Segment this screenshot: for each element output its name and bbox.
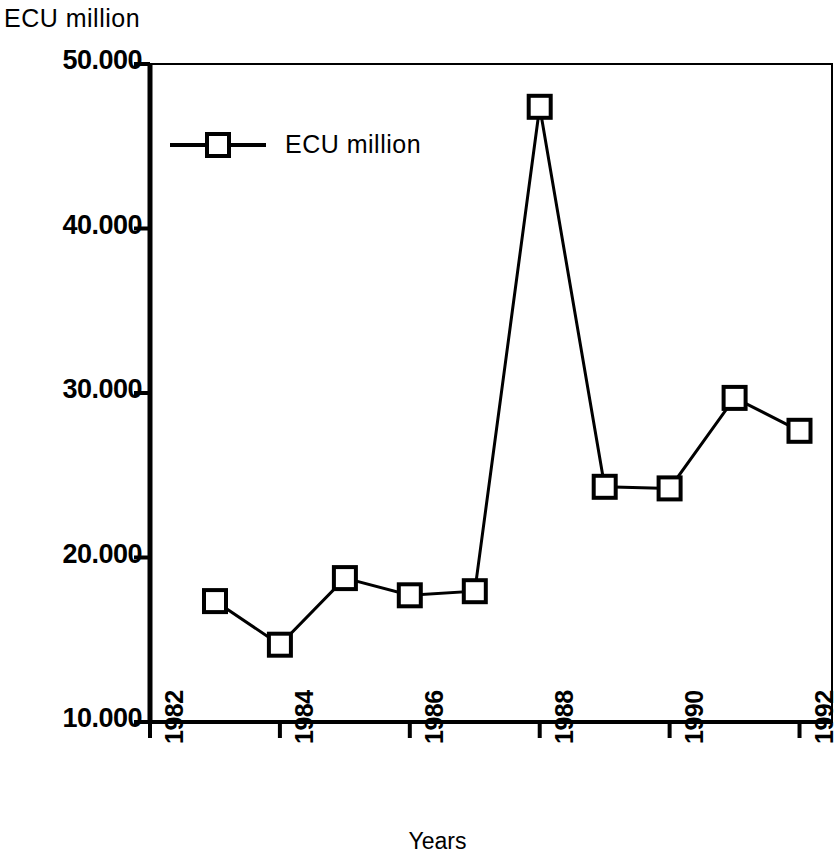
x-axis-title-text: Years <box>409 828 467 854</box>
line-chart: ECU million 50.00040.00030.00020.00010.0… <box>0 0 839 868</box>
x-axis-tick-label: 1982 <box>160 690 189 744</box>
x-axis-title: Years <box>0 828 839 855</box>
legend-entry-label: ECU million <box>285 130 421 159</box>
y-axis-tick-label: 40.000 <box>2 210 142 241</box>
x-axis-tick-label: 1984 <box>290 690 319 744</box>
x-axis-tick-label: 1986 <box>420 690 449 744</box>
y-axis-tick-label: 30.000 <box>2 374 142 405</box>
x-axis-tick-label: 1990 <box>680 690 709 744</box>
x-axis-tick-label: 1988 <box>550 690 579 744</box>
y-axis-tick-label: 20.000 <box>2 539 142 570</box>
x-axis-tick-label: 1992 <box>810 690 839 744</box>
series-markers-ecu-million <box>204 96 811 656</box>
y-axis-tick-label: 50.000 <box>2 45 142 76</box>
y-axis-tick-label: 10.000 <box>2 703 142 734</box>
legend-sample-line-marker <box>170 134 266 156</box>
series-line-ecu-million <box>215 107 800 645</box>
